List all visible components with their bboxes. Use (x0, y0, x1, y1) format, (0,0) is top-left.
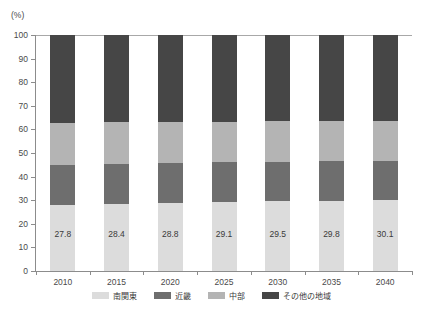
bar-value-label: 29.1 (212, 229, 237, 239)
bar-segment[interactable] (212, 162, 237, 202)
bar-group[interactable]: 28.8 (158, 35, 183, 271)
x-axis-tick (36, 271, 37, 275)
x-axis-tick (197, 271, 198, 275)
y-axis-tick-label: 70 (0, 101, 28, 111)
legend-item[interactable]: 中部 (208, 290, 245, 301)
bar-segment[interactable] (373, 121, 398, 161)
legend-label: 中部 (229, 290, 245, 301)
bar-group[interactable]: 27.8 (50, 35, 75, 271)
bar-segment[interactable] (265, 162, 290, 202)
bar-segment[interactable] (373, 35, 398, 121)
legend-label: 近畿 (175, 290, 191, 301)
legend-item[interactable]: 南関東 (92, 290, 137, 301)
bar-segment[interactable] (158, 122, 183, 163)
y-axis-tick-label: 90 (0, 54, 28, 64)
x-axis-tick (90, 271, 91, 275)
x-axis-tick (251, 271, 252, 275)
x-axis-tick (412, 271, 413, 275)
y-axis-tick-label: 10 (0, 242, 28, 252)
x-axis-tick (305, 271, 306, 275)
bar-segment[interactable] (50, 123, 75, 165)
x-axis-tick-label: 2030 (252, 277, 304, 287)
chart-legend: 南関東近畿中部その他の地域 (0, 290, 422, 301)
bar-segment[interactable] (104, 164, 129, 204)
y-axis-tick-label: 60 (0, 124, 28, 134)
bar-segment[interactable] (50, 35, 75, 123)
y-axis-tick-label: 50 (0, 148, 28, 158)
x-axis-tick-label: 2015 (91, 277, 143, 287)
bar-value-label: 29.5 (265, 229, 290, 239)
legend-swatch-icon (262, 292, 279, 299)
bar-segment[interactable] (104, 35, 129, 122)
y-axis-labels: 0102030405060708090100 (0, 0, 28, 312)
x-axis-line (35, 271, 412, 272)
bar-group[interactable]: 30.1 (373, 35, 398, 271)
legend-swatch-icon (208, 292, 225, 299)
y-axis-tick-label: 100 (0, 30, 28, 40)
legend-label: その他の地域 (283, 290, 331, 301)
x-axis-tick-label: 2020 (144, 277, 196, 287)
y-axis-tick-label: 80 (0, 77, 28, 87)
bar-value-label: 29.8 (319, 229, 344, 239)
x-axis-tick-label: 2010 (37, 277, 89, 287)
bar-value-label: 27.8 (50, 229, 75, 239)
x-axis-tick-label: 2035 (305, 277, 357, 287)
x-axis-tick-label: 2025 (198, 277, 250, 287)
bar-segment[interactable] (319, 35, 344, 121)
bar-segment[interactable] (158, 163, 183, 203)
bar-segment[interactable] (319, 121, 344, 161)
y-axis-tick-label: 40 (0, 172, 28, 182)
y-axis-tick-label: 20 (0, 219, 28, 229)
bar-group[interactable]: 29.1 (212, 35, 237, 271)
legend-swatch-icon (154, 292, 171, 299)
bar-group[interactable]: 28.4 (104, 35, 129, 271)
y-axis-tick-label: 0 (0, 266, 28, 276)
legend-swatch-icon (92, 292, 109, 299)
x-axis-tick (358, 271, 359, 275)
bar-segment[interactable] (158, 35, 183, 122)
bar-segment[interactable] (212, 35, 237, 122)
bar-value-label: 30.1 (373, 229, 398, 239)
legend-item[interactable]: その他の地域 (262, 290, 331, 301)
bar-value-label: 28.8 (158, 229, 183, 239)
bar-segment[interactable] (319, 161, 344, 200)
bar-segment[interactable] (104, 122, 129, 163)
legend-label: 南関東 (113, 290, 137, 301)
x-axis-tick (143, 271, 144, 275)
bar-segment[interactable] (265, 121, 290, 162)
plot-area: 27.828.428.829.129.529.830.1 (36, 35, 412, 271)
bar-segment[interactable] (50, 165, 75, 206)
bar-group[interactable]: 29.5 (265, 35, 290, 271)
stacked-bar-chart: (%) 0102030405060708090100 27.828.428.82… (0, 0, 422, 312)
bar-value-label: 28.4 (104, 229, 129, 239)
y-axis-tick-label: 30 (0, 195, 28, 205)
legend-item[interactable]: 近畿 (154, 290, 191, 301)
x-axis-tick-label: 2040 (359, 277, 411, 287)
bar-segment[interactable] (212, 122, 237, 163)
bar-segment[interactable] (265, 35, 290, 121)
bar-group[interactable]: 29.8 (319, 35, 344, 271)
bar-segment[interactable] (373, 161, 398, 200)
